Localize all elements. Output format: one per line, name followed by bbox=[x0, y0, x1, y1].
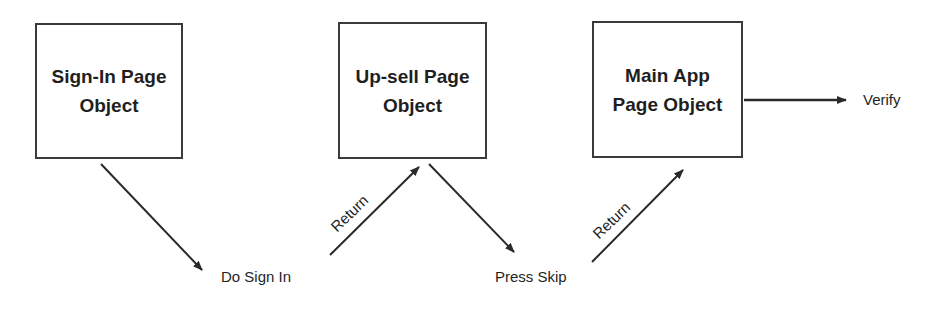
node-main-app-page-object: Main App Page Object bbox=[592, 21, 743, 158]
arrow-up-sell-to-press-skip bbox=[429, 164, 514, 252]
node-label: Main App Page Object bbox=[613, 61, 723, 119]
node-up-sell-page-object: Up-sell Page Object bbox=[338, 22, 487, 159]
node-label: Up-sell Page Object bbox=[355, 62, 469, 120]
action-do-sign-in: Do Sign In bbox=[221, 268, 291, 285]
action-press-skip: Press Skip bbox=[495, 268, 567, 285]
node-sign-in-page-object: Sign-In Page Object bbox=[35, 23, 183, 159]
node-label: Sign-In Page Object bbox=[51, 62, 166, 120]
action-verify: Verify bbox=[863, 91, 901, 108]
arrow-sign-in-to-do-sign-in bbox=[101, 164, 202, 270]
